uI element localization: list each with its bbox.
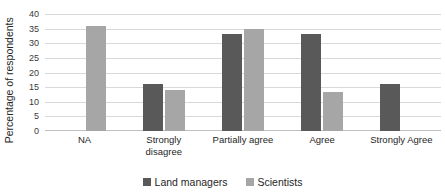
y-axis-title: Percentage of respondents: [0, 0, 18, 160]
y-axis-title-label: Percentage of respondents: [4, 17, 15, 143]
bar: [86, 26, 106, 131]
y-axis-tick-label: 0: [34, 127, 39, 136]
bar-group: [362, 14, 441, 131]
bar-group: [283, 14, 362, 131]
y-axis-tick-label: 5: [34, 112, 39, 121]
x-axis-tick-label-line: Strongly Agree: [362, 134, 441, 146]
legend-entry[interactable]: Scientists: [246, 177, 303, 188]
x-axis-tick-label: Stronglydisagree: [124, 134, 203, 158]
x-axis-tick-label: Partially agree: [203, 134, 282, 146]
bar: [301, 34, 321, 131]
y-axis-tick-label: 40: [29, 10, 39, 19]
plot-area: [45, 14, 441, 131]
x-axis-tick-label-line: disagree: [124, 146, 203, 158]
x-axis-tick-label-line: Partially agree: [203, 134, 282, 146]
legend-swatch-icon: [246, 178, 254, 186]
legend-swatch-icon: [143, 178, 151, 186]
bars-layer: [45, 14, 441, 131]
x-axis-tick-label-line: Agree: [283, 134, 362, 146]
bar-group: [45, 14, 124, 131]
legend-label: Scientists: [258, 177, 303, 188]
y-axis-tick-label: 25: [29, 53, 39, 62]
bar-group: [203, 14, 282, 131]
x-axis-tick-label: NA: [45, 134, 124, 146]
bar: [380, 84, 400, 131]
bar: [222, 34, 242, 131]
bar: [143, 84, 163, 131]
y-axis-tick-label: 30: [29, 39, 39, 48]
legend-label: Land managers: [155, 177, 228, 188]
bar: [165, 90, 185, 131]
y-axis-tick-labels: 0510152025303540: [18, 14, 42, 131]
legend-entry[interactable]: Land managers: [143, 177, 228, 188]
y-axis-tick-label: 10: [29, 97, 39, 106]
bar: [244, 29, 264, 131]
bar-chart: Percentage of respondents 05101520253035…: [0, 0, 445, 194]
y-axis-tick-label: 35: [29, 24, 39, 33]
y-axis-tick-label: 15: [29, 83, 39, 92]
x-axis-tick-label-line: NA: [45, 134, 124, 146]
chart-legend: Land managersScientists: [0, 172, 445, 192]
x-axis-tick-label-line: Strongly: [124, 134, 203, 146]
y-axis-tick-label: 20: [29, 68, 39, 77]
bar: [323, 92, 343, 131]
x-axis-tick-label: Agree: [283, 134, 362, 146]
bar-group: [124, 14, 203, 131]
x-axis-tick-labels: NAStronglydisagreePartially agreeAgreeSt…: [45, 134, 441, 170]
x-axis-tick-label: Strongly Agree: [362, 134, 441, 146]
